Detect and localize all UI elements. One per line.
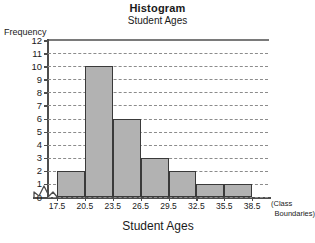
x-tick-label: 17.5 <box>42 201 72 211</box>
y-tick-label: 2 <box>26 166 42 175</box>
gridline <box>48 53 268 54</box>
histogram-bar <box>196 184 224 197</box>
x-tick-label: 26.5 <box>126 201 156 211</box>
histogram-bar <box>169 171 197 197</box>
x-tick-label: 29.5 <box>154 201 184 211</box>
gridline <box>48 66 268 67</box>
histogram-chart: Histogram Student Ages Frequency 0123456… <box>0 0 315 243</box>
gridline <box>48 132 268 133</box>
histogram-bar <box>113 119 141 198</box>
gridline <box>48 92 268 93</box>
gridline <box>48 197 268 198</box>
axis-break-icon <box>33 183 59 199</box>
gridline <box>48 145 268 146</box>
x-tick-label: 35.5 <box>209 201 239 211</box>
plot-area <box>48 40 268 197</box>
y-tick-label: 11 <box>26 49 42 58</box>
histogram-bar <box>57 171 85 197</box>
y-tick-label: 4 <box>26 140 42 149</box>
histogram-bar <box>85 66 113 197</box>
x-axis-label: Student Ages <box>48 219 268 233</box>
y-tick-label: 7 <box>26 101 42 110</box>
y-tick-label: 3 <box>26 153 42 162</box>
gridline <box>48 119 268 120</box>
histogram-bar <box>141 158 169 197</box>
y-tick-label: 5 <box>26 127 42 136</box>
y-tick-label: 12 <box>26 36 42 45</box>
y-tick-label: 9 <box>26 75 42 84</box>
class-boundaries-note-line1: (Class <box>271 199 292 208</box>
x-tick-label: 23.5 <box>98 201 128 211</box>
x-tick-label: 38.5 <box>237 201 267 211</box>
y-tick-label: 8 <box>26 88 42 97</box>
gridline <box>48 105 268 106</box>
y-tick-label: 6 <box>26 114 42 123</box>
chart-title: Histogram <box>0 2 315 14</box>
chart-subtitle: Student Ages <box>0 15 315 26</box>
histogram-bar <box>224 184 252 197</box>
x-tick-label: 20.5 <box>70 201 100 211</box>
gridline <box>48 79 268 80</box>
class-boundaries-note: (Class Boundaries) <box>271 199 315 219</box>
class-boundaries-note-line2: Boundaries) <box>271 209 315 219</box>
x-tick-label: 32.5 <box>181 201 211 211</box>
y-tick-label: 10 <box>26 62 42 71</box>
